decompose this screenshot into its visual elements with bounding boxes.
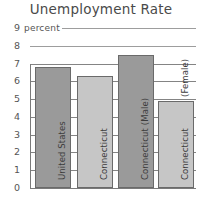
bar-label: Connecticut (Male) xyxy=(141,98,150,180)
bar-label: United States xyxy=(58,121,67,180)
y-axis-tick-label: 3 xyxy=(6,130,20,140)
gridline xyxy=(30,46,196,47)
y-axis-tick-label: 0 xyxy=(6,183,20,193)
bar-sublabel: (Female) xyxy=(181,59,190,97)
y-axis-unit-label: percent xyxy=(24,23,60,33)
bar-label: Connecticut xyxy=(100,128,109,180)
gridline-top xyxy=(62,28,196,29)
y-axis-line xyxy=(30,64,31,188)
chart-container: Unemployment Rate 9876543210percentUnite… xyxy=(0,0,202,202)
y-axis-tick-label: 1 xyxy=(6,165,20,175)
x-axis-line xyxy=(30,188,196,189)
y-axis-tick-label: 6 xyxy=(6,76,20,86)
bar-label: Connecticut xyxy=(181,128,190,180)
y-axis-tick-label: 2 xyxy=(6,147,20,157)
y-axis-tick-label: 5 xyxy=(6,94,20,104)
y-axis-tick-label: 8 xyxy=(6,41,20,51)
y-axis-tick-label: 4 xyxy=(6,112,20,122)
y-axis-tick-label: 7 xyxy=(6,59,20,69)
gridline xyxy=(30,64,196,65)
y-axis-tick-label: 9 xyxy=(6,23,20,33)
plot-area: 9876543210percentUnited StatesConnecticu… xyxy=(0,0,202,202)
